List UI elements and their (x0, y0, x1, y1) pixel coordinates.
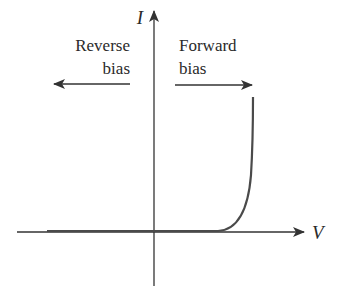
forward-bias-label-line1: Forward (179, 36, 237, 55)
forward-bias-label-line2: bias (179, 59, 206, 78)
y-axis-label: I (136, 7, 145, 28)
reverse-bias-label-line1: Reverse (75, 36, 130, 55)
iv-curve (47, 97, 253, 231)
diode-iv-diagram: I V Reverse bias Forward bias (0, 0, 343, 298)
x-axis-label: V (312, 222, 326, 243)
reverse-bias-label-line2: bias (103, 59, 130, 78)
